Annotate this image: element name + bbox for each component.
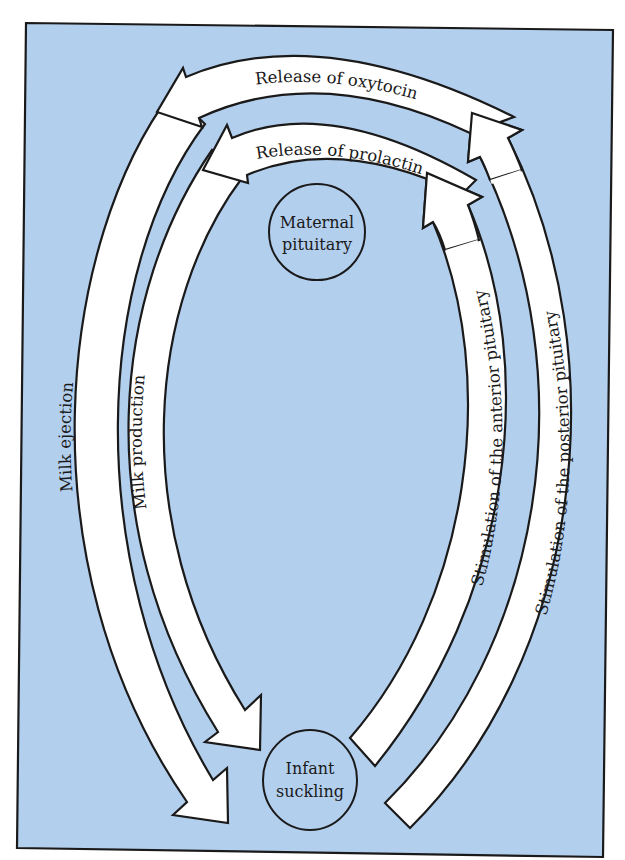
infant-suckling-line1: Infant [286,759,335,778]
label-milk-ejection: Milk ejection [55,381,77,493]
lactation-reflex-diagram: Release of oxytocin Release of prolactin… [0,0,625,860]
maternal-pituitary-line2: pituitary [282,235,352,254]
infant-suckling-line2: suckling [276,782,344,801]
maternal-pituitary-line1: Maternal [280,213,354,232]
